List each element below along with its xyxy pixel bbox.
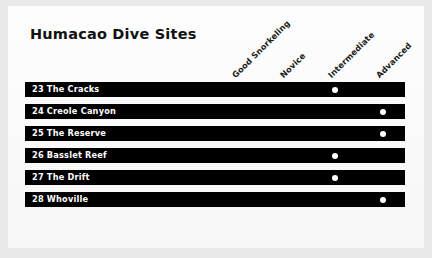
row-label: 23 The Cracks (32, 82, 99, 97)
marker-dot-novice (332, 87, 338, 93)
table-row: 24 Creole Canyon (25, 104, 405, 119)
table-row: 26 Basslet Reef (25, 148, 405, 163)
row-label: 26 Basslet Reef (32, 148, 107, 163)
chart-canvas: Humacao Dive Sites Good SnorkelingNovice… (0, 0, 432, 258)
marker-dot-intermediate (380, 109, 386, 115)
marker-dot-novice (332, 175, 338, 181)
table-row: 27 The Drift (25, 170, 405, 185)
row-label: 25 The Reserve (32, 126, 106, 141)
marker-dot-intermediate (380, 131, 386, 137)
marker-dot-novice (332, 153, 338, 159)
row-label: 27 The Drift (32, 170, 90, 185)
table-row: 28 Whoville (25, 192, 405, 207)
marker-dot-intermediate (380, 197, 386, 203)
table-row: 23 The Cracks (25, 82, 405, 97)
table-row: 25 The Reserve (25, 126, 405, 141)
row-label: 28 Whoville (32, 192, 88, 207)
row-label: 24 Creole Canyon (32, 104, 116, 119)
dive-site-row-group: 23 The Cracks24 Creole Canyon25 The Rese… (0, 0, 432, 258)
